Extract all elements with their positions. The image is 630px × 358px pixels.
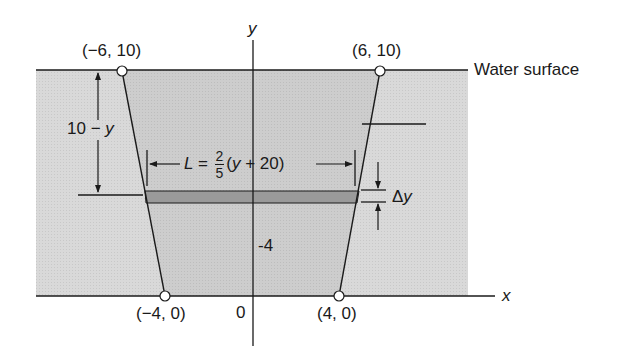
delta-symbol: Δ [392, 187, 403, 206]
point-label-top-right: (6, 10) [352, 42, 401, 59]
point-label-bottom-left: (−4, 0) [136, 305, 186, 322]
origin-label: 0 [236, 304, 245, 321]
fraction-denominator: 5 [215, 165, 225, 180]
x-axis-label: x [502, 287, 511, 304]
length-formula-prefix: L = [184, 154, 213, 173]
point-marker-top-right [375, 66, 385, 76]
trapezoid-region [122, 70, 380, 296]
point-marker-bottom-left [160, 291, 170, 301]
dam-diagram: y x 0 -4 (−6, 10) (6, 10) (−4, 0) (4, 0)… [0, 0, 630, 358]
fraction-numerator: 2 [215, 149, 225, 165]
horizontal-strip [145, 191, 359, 203]
depth-label-var: y [105, 119, 114, 138]
point-marker-top-left [117, 66, 127, 76]
depth-label-op: − [86, 119, 105, 138]
point-marker-bottom-right [334, 291, 344, 301]
water-surface-label: Water surface [474, 61, 579, 78]
length-fraction: 25 [215, 149, 225, 180]
y-axis-label: y [248, 20, 257, 37]
length-formula: L = 25(y + 20) [184, 149, 284, 180]
strip-thickness-label: Δy [392, 188, 412, 205]
tick-label-minus-4: -4 [258, 237, 273, 254]
delta-var: y [403, 187, 412, 206]
depth-label-num: 10 [67, 119, 86, 138]
depth-label: 10 − y [67, 120, 114, 137]
point-label-top-left: (−6, 10) [82, 42, 141, 59]
length-var: y [232, 154, 241, 173]
length-suffix: + 20) [241, 154, 285, 173]
point-label-bottom-right: (4, 0) [317, 305, 357, 322]
